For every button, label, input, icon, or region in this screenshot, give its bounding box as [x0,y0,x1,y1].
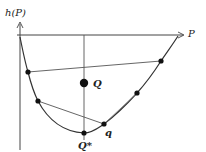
point-upper-right [158,58,163,63]
convex-function-diagram: h(P) P Q q Q* [0,0,206,152]
point-lower-left [35,98,40,103]
label-q: q [105,127,112,138]
point-q [101,121,106,126]
point-q-star [81,130,86,135]
lower-chord [38,101,104,124]
lower-chord-right [104,93,137,124]
point-lower-right [134,90,139,95]
label-big-q: Q [93,78,102,89]
upper-chord [28,61,161,72]
point-big-q [80,79,88,87]
x-axis-label: P [187,28,195,39]
label-q-star: Q* [78,140,93,151]
y-axis-label: h(P) [5,7,26,18]
point-upper-left [25,69,30,74]
